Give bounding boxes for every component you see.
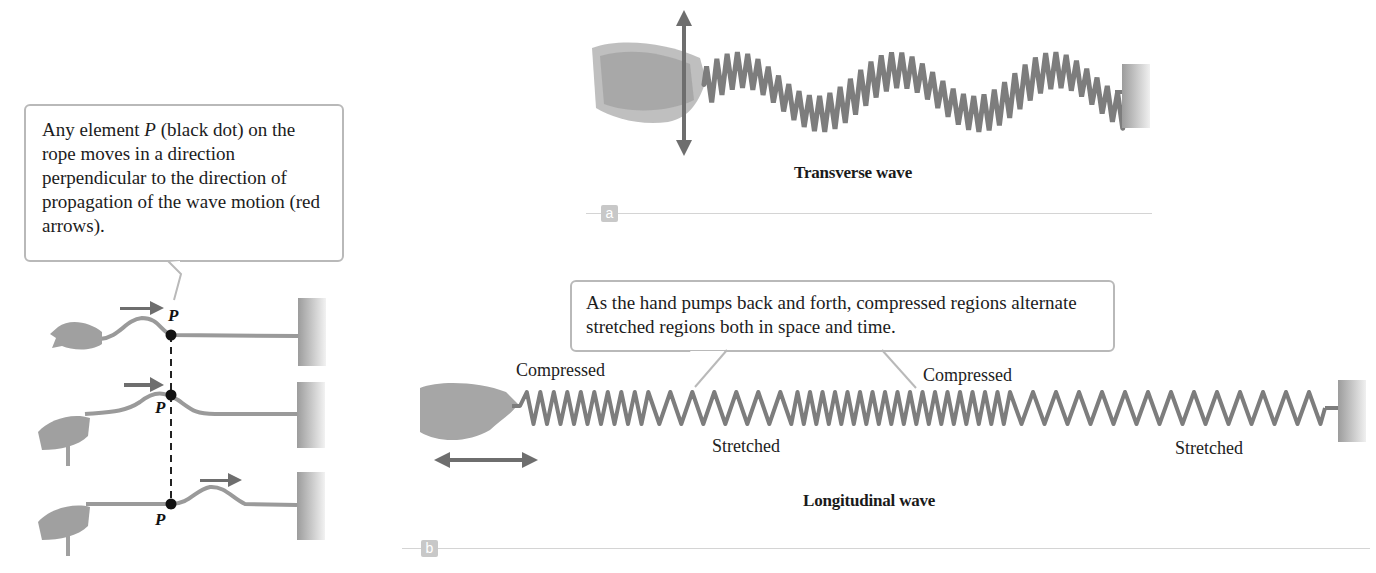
label-compressed-1: Compressed — [516, 360, 605, 381]
longitudinal-wave-caption: Longitudinal wave — [803, 491, 935, 511]
label-compressed-2: Compressed — [923, 365, 1012, 386]
label-stretched-1: Stretched — [712, 436, 780, 457]
panel-b-tag: b — [421, 540, 438, 557]
longitudinal-wave-diagram — [0, 0, 1376, 573]
label-stretched-2: Stretched — [1175, 438, 1243, 459]
panel-b-rule — [402, 548, 1370, 549]
